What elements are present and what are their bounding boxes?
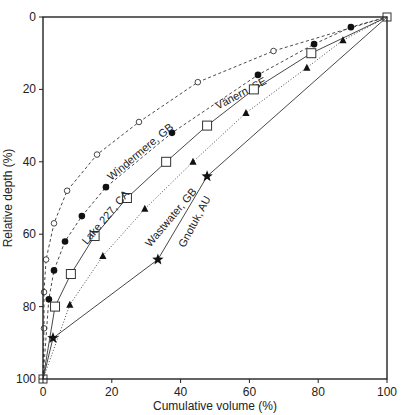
open-circle-marker [94, 152, 100, 158]
series-line [43, 17, 387, 379]
series-windermere-gb: Windermere, GB [43, 17, 387, 379]
series-line [43, 17, 387, 379]
open-circle-marker [41, 326, 47, 332]
filled-circle-marker [103, 184, 110, 191]
series-line [43, 17, 387, 379]
filled-circle-marker [51, 267, 58, 274]
y-tick-label: 80 [23, 300, 37, 314]
series-label: Vänern, SE [213, 75, 268, 112]
filled-triangle-marker [66, 301, 73, 308]
open-square-marker [307, 49, 316, 58]
open-circle-marker [136, 119, 142, 125]
series-line [43, 17, 387, 379]
x-tick-label: 80 [312, 385, 326, 399]
x-tick-label: 100 [377, 385, 397, 399]
hypsographic-chart: Vänern, SEWindermere, GBLake 227, CAWast… [0, 0, 406, 415]
y-tick-label: 60 [23, 227, 37, 241]
open-square-marker [162, 157, 171, 166]
x-tick-label: 20 [105, 385, 119, 399]
series-wastwater-gb: Wastwater, GB [43, 17, 387, 379]
y-tick-label: 20 [23, 82, 37, 96]
open-square-marker [51, 302, 60, 311]
open-square-marker [249, 85, 258, 94]
star-marker [201, 170, 212, 181]
open-circle-marker [43, 257, 49, 263]
open-square-marker [66, 270, 75, 279]
series-line [43, 17, 387, 379]
open-circle-marker [195, 79, 201, 85]
series-label: Lake 227, CA [79, 187, 131, 246]
filled-circle-marker [311, 41, 318, 48]
plot-frame [43, 17, 387, 379]
y-tick-label: 40 [23, 155, 37, 169]
filled-circle-marker [348, 24, 355, 31]
filled-triangle-marker [303, 64, 310, 71]
series-layer: Vänern, SEWindermere, GBLake 227, CAWast… [39, 13, 391, 383]
y-tick-label: 100 [16, 372, 36, 386]
filled-triangle-marker [189, 158, 196, 165]
x-axis-title: Cumulative volume (%) [153, 399, 277, 413]
open-circle-marker [64, 188, 70, 194]
series-gnotuk-au: Gnotuk, AU [43, 17, 387, 379]
x-tick-label: 0 [40, 385, 47, 399]
filled-triangle-marker [242, 109, 249, 116]
filled-circle-marker [255, 72, 262, 79]
series-label: Windermere, GB [105, 121, 175, 183]
y-axis-title: Relative depth (%) [1, 149, 15, 248]
open-circle-marker [51, 221, 57, 227]
x-tick-label: 60 [243, 385, 257, 399]
open-circle-marker [271, 48, 277, 54]
open-square-marker [203, 121, 212, 130]
x-tick-label: 40 [174, 385, 188, 399]
series-lake-227-ca: Lake 227, CA [39, 13, 391, 383]
filled-circle-marker [79, 213, 86, 220]
y-tick-label: 0 [29, 10, 36, 24]
filled-circle-marker [62, 238, 69, 245]
open-circle-marker [41, 289, 47, 295]
series-v-nern-se: Vänern, SE [41, 17, 387, 379]
